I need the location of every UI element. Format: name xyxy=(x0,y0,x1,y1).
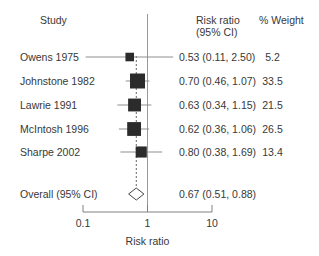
risk-ratio-ci-value: 0.53 (0.11, 2.50) xyxy=(179,51,255,63)
x-axis-label: Risk ratio xyxy=(126,235,170,247)
study-label: McIntosh 1996 xyxy=(20,123,89,135)
effect-size-square xyxy=(127,122,141,136)
x-axis-tick-label: 1 xyxy=(145,217,151,229)
x-axis-tick-label: 0.1 xyxy=(76,217,91,229)
study-label: Lawrie 1991 xyxy=(20,99,77,111)
overall-diamond xyxy=(129,188,144,200)
effect-size-square xyxy=(136,146,147,157)
effect-size-square xyxy=(125,53,134,62)
column-header-weight: % Weight xyxy=(259,14,304,26)
effect-size-square xyxy=(128,99,141,112)
study-label: Sharpe 2002 xyxy=(20,146,80,158)
weight-value: 26.5 xyxy=(262,123,283,135)
column-header-risk-ratio: Risk ratio xyxy=(196,14,240,26)
forest-plot-canvas: Study Risk ratio (95% CI) % Weight Owens… xyxy=(0,0,319,256)
study-label: Johnstone 1982 xyxy=(20,75,95,87)
overall-label: Overall (95% CI) xyxy=(20,188,98,200)
risk-ratio-ci-value: 0.80 (0.38, 1.69) xyxy=(179,146,256,158)
column-header-risk-ratio-ci: (95% CI) xyxy=(196,26,237,38)
weight-value: 13.4 xyxy=(262,146,283,158)
x-axis-tick-label: 10 xyxy=(206,217,218,229)
weight-value: 5.2 xyxy=(265,51,280,63)
risk-ratio-ci-value: 0.63 (0.34, 1.15) xyxy=(179,99,256,111)
chart-layer: Owens 19750.53 (0.11, 2.50)5.2Johnstone … xyxy=(20,14,283,229)
forest-plot-figure: Study Risk ratio (95% CI) % Weight Owens… xyxy=(0,0,319,256)
weight-value: 33.5 xyxy=(262,75,283,87)
weight-value: 21.5 xyxy=(262,99,283,111)
risk-ratio-ci-value: 0.62 (0.36, 1.06) xyxy=(179,123,256,135)
effect-size-square xyxy=(130,74,145,89)
study-label: Owens 1975 xyxy=(20,51,79,63)
overall-risk-ratio-ci-value: 0.67 (0.51, 0.88) xyxy=(179,188,256,200)
column-header-study: Study xyxy=(40,14,68,26)
risk-ratio-ci-value: 0.70 (0.46, 1.07) xyxy=(179,75,256,87)
